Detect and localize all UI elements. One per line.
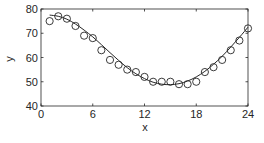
- y-tick-label: 80: [26, 3, 38, 15]
- plot-background: [41, 9, 248, 106]
- x-axis-label: x: [142, 121, 148, 133]
- x-tick-label: 18: [190, 108, 202, 120]
- y-tick-label: 70: [26, 27, 38, 39]
- y-tick-label: 60: [26, 52, 38, 64]
- scatter-chart: 061218244050607080 x y: [0, 0, 264, 143]
- y-tick-label: 50: [26, 76, 38, 88]
- x-tick-label: 12: [138, 108, 150, 120]
- x-tick-label: 24: [242, 108, 254, 120]
- y-axis-label: y: [3, 56, 15, 62]
- x-tick-label: 6: [90, 108, 96, 120]
- y-tick-label: 40: [26, 100, 38, 112]
- x-tick-label: 0: [38, 108, 44, 120]
- plot-area: [41, 9, 248, 106]
